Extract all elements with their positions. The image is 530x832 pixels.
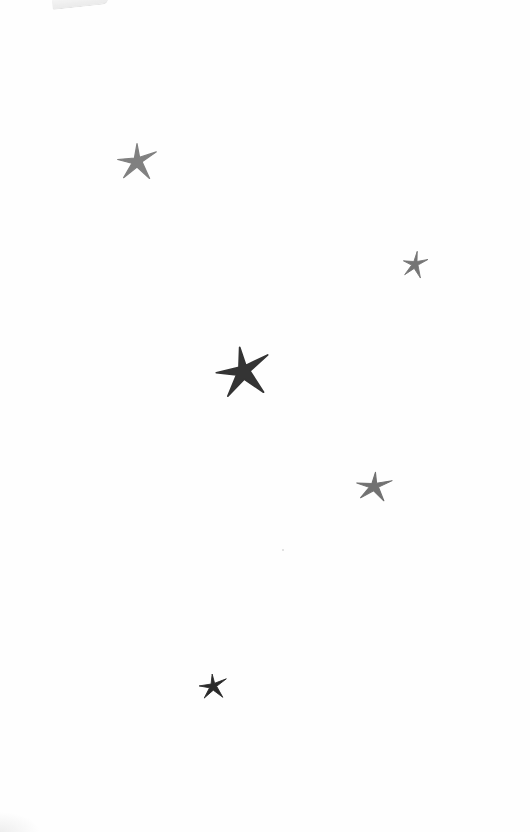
star-4-icon bbox=[354, 469, 395, 503]
star-3-icon bbox=[211, 341, 276, 401]
paper-corner-fold bbox=[52, 0, 109, 10]
star-5-icon bbox=[197, 672, 229, 700]
star-2-icon bbox=[400, 248, 430, 280]
paper-speck bbox=[282, 549, 284, 551]
star-1-icon bbox=[116, 142, 158, 180]
page-edge-shadow bbox=[0, 812, 40, 832]
scanned-page bbox=[0, 0, 530, 832]
